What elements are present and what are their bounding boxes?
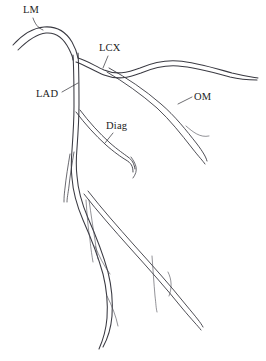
- vessel-lad-branch-left: [64, 152, 74, 202]
- leader-om: [178, 97, 192, 104]
- vessel-twigs: [86, 200, 171, 326]
- vessel-om: [107, 68, 209, 164]
- leader-lad: [62, 83, 78, 92]
- label-lm: LM: [23, 5, 39, 16]
- label-lcx: LCX: [99, 43, 121, 54]
- vessel-lcx: [76, 58, 258, 80]
- label-diag: Diag: [106, 121, 127, 132]
- vessel-lm: [13, 27, 78, 60]
- artery-tree-drawing: [0, 0, 266, 361]
- label-lad: LAD: [36, 89, 58, 100]
- leader-lcx: [103, 56, 108, 68]
- label-om: OM: [194, 92, 211, 103]
- vessel-lad: [71, 53, 112, 349]
- coronary-artery-diagram: LM LCX LAD Diag OM: [0, 0, 266, 361]
